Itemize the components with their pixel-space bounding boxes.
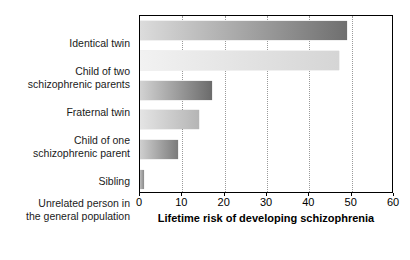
x-tick-label-20: 20 — [209, 196, 239, 208]
bar-4 — [140, 140, 178, 159]
gridline-40 — [309, 16, 310, 192]
x-tick-label-50: 50 — [336, 196, 366, 208]
plot-area — [139, 15, 393, 193]
category-label-sibling: Sibling — [0, 175, 130, 188]
x-axis-title: Lifetime risk of developing schizophreni… — [139, 212, 393, 224]
category-label-unrelated-person-general-population: Unrelated person in the general populati… — [0, 197, 130, 222]
category-axis-labels: Identical twin Child of two schizophreni… — [0, 15, 134, 193]
bar-1 — [140, 51, 339, 70]
x-tick-label-40: 40 — [293, 196, 323, 208]
gridline-20 — [225, 16, 226, 192]
category-label-identical-twin: Identical twin — [0, 37, 130, 50]
bar-3 — [140, 110, 199, 129]
x-tick-label-10: 10 — [166, 196, 196, 208]
x-tick-label-30: 30 — [251, 196, 281, 208]
gridline-30 — [267, 16, 268, 192]
category-label-child-of-two-schizophrenic-parents: Child of two schizophrenic parents — [0, 65, 130, 90]
x-tick-label-60: 60 — [378, 196, 408, 208]
gridline-50 — [352, 16, 353, 192]
x-tick-label-0: 0 — [124, 196, 154, 208]
bar-5 — [140, 170, 144, 189]
chart-container: Identical twin Child of two schizophreni… — [0, 0, 410, 260]
category-label-fraternal-twin: Fraternal twin — [0, 106, 130, 119]
bar-0 — [140, 21, 347, 40]
gridline-10 — [182, 16, 183, 192]
bar-2 — [140, 81, 212, 100]
category-label-child-of-one-schizophrenic-parent: Child of one schizophrenic parent — [0, 134, 130, 159]
